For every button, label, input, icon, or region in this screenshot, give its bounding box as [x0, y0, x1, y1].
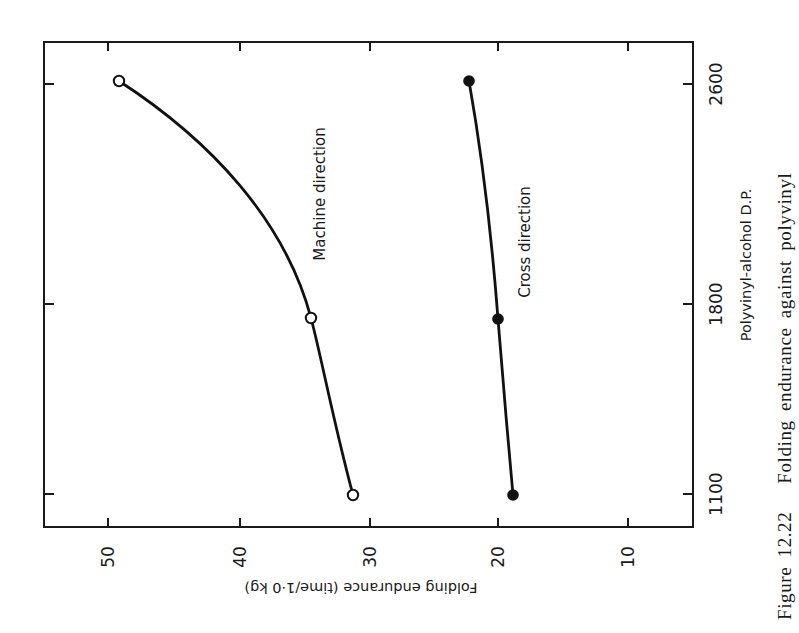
chart: 50 40 30 20 10 Folding endurance (time/1…: [0, 0, 799, 633]
open-circle-marker: [306, 313, 316, 323]
cross-direction-markers: [463, 75, 519, 501]
x-tick-label-2600: 2600: [706, 62, 726, 105]
y-tick-label-20: 20: [488, 546, 508, 568]
x-tick-label-1100: 1100: [706, 472, 726, 515]
open-circle-marker: [114, 76, 124, 86]
series-label-machine-direction: Machine direction: [311, 127, 329, 260]
x-axis-tick-labels: 2600 1800 1100: [706, 62, 726, 515]
y-tick-label-50: 50: [98, 546, 118, 568]
x-axis-ticks: [44, 84, 693, 494]
figure-caption: Figure 12.22 Folding endurance against p…: [774, 173, 795, 620]
y-axis-tick-labels: 50 40 30 20 10: [98, 546, 638, 568]
filled-circle-marker: [492, 313, 504, 325]
cross-direction-curve: [469, 81, 513, 495]
y-tick-label-40: 40: [230, 546, 250, 568]
x-tick-label-1800: 1800: [706, 282, 726, 325]
open-circle-marker: [348, 490, 358, 500]
y-tick-label-10: 10: [618, 546, 638, 568]
x-axis-label: Polyvinyl-alcohol D.P.: [738, 189, 754, 342]
y-tick-label-30: 30: [360, 546, 380, 568]
y-axis-label: Folding endurance (time/1·0 kg): [244, 580, 477, 596]
plot-frame: [44, 42, 693, 527]
series-label-cross-direction: Cross direction: [516, 186, 534, 298]
filled-circle-marker: [507, 489, 519, 501]
filled-circle-marker: [463, 75, 475, 87]
y-axis-ticks: [108, 42, 628, 527]
